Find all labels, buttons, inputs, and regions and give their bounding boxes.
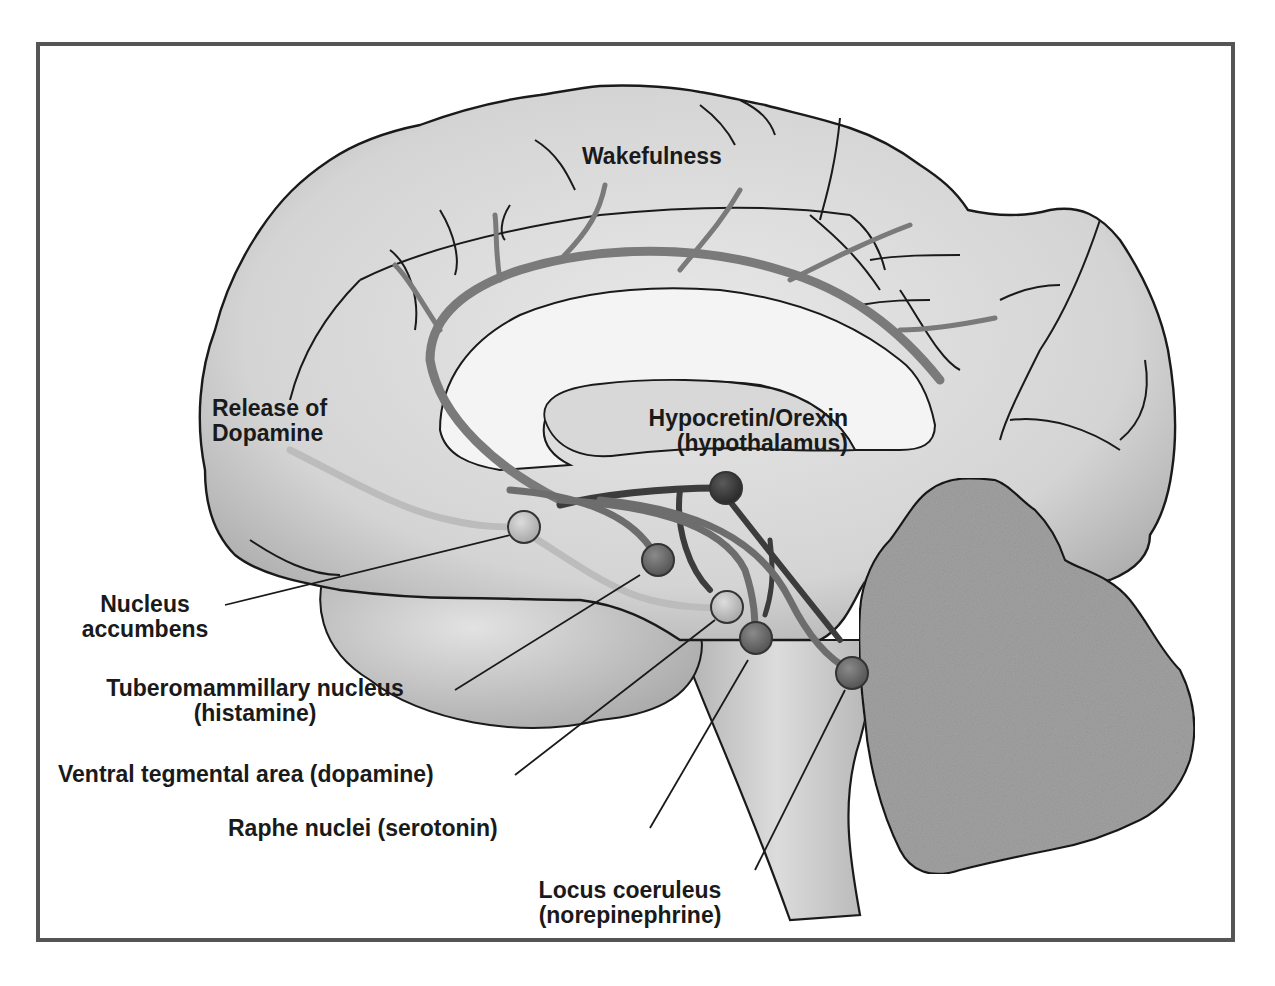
- label-lc-line2: (norepinephrine): [505, 903, 755, 928]
- label-orexin-line1: Hypocretin/Orexin: [558, 406, 848, 431]
- label-raphe: Raphe nuclei (serotonin): [228, 816, 498, 841]
- label-accumbens-line1: Nucleus: [80, 592, 210, 617]
- label-tmn-line2: (histamine): [60, 701, 450, 726]
- label-release-line2: Dopamine: [212, 421, 327, 446]
- nucleus-accumbens-node: [508, 511, 540, 543]
- label-orexin: Hypocretin/Orexin (hypothalamus): [558, 406, 848, 456]
- label-accumbens-line2: accumbens: [80, 617, 210, 642]
- label-wakefulness: Wakefulness: [582, 144, 722, 169]
- locus-coeruleus-node: [836, 657, 868, 689]
- vta-node: [711, 591, 743, 623]
- label-tuberomammillary: Tuberomammillary nucleus (histamine): [60, 676, 450, 726]
- tuberomammillary-node: [642, 544, 674, 576]
- orexin-node: [710, 472, 742, 504]
- label-nucleus-accumbens: Nucleus accumbens: [80, 592, 210, 642]
- label-vta: Ventral tegmental area (dopamine): [58, 762, 434, 787]
- label-orexin-line2: (hypothalamus): [558, 431, 848, 456]
- label-locus-coeruleus: Locus coeruleus (norepinephrine): [505, 878, 755, 928]
- label-release-dopamine: Release of Dopamine: [212, 396, 327, 446]
- label-lc-line1: Locus coeruleus: [505, 878, 755, 903]
- label-release-line1: Release of: [212, 396, 327, 421]
- label-tmn-line1: Tuberomammillary nucleus: [60, 676, 450, 701]
- raphe-node: [740, 622, 772, 654]
